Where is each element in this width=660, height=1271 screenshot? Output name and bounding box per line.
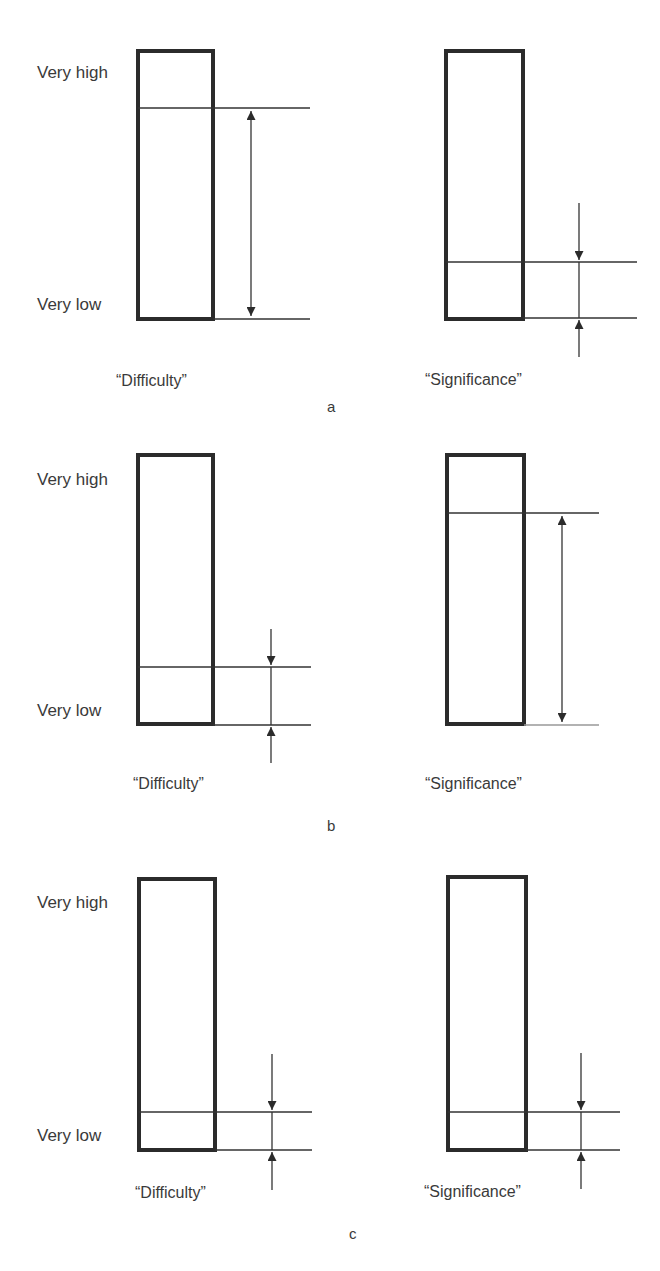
gauge-label-significance: “Significance” <box>424 1183 521 1201</box>
gauge-box <box>447 455 524 724</box>
gauge-box <box>138 51 213 319</box>
gauge-label-difficulty: “Difficulty” <box>135 1184 206 1202</box>
gauge-difficulty-b <box>138 455 311 763</box>
gauge-label-difficulty: “Difficulty” <box>133 775 204 793</box>
panel-caption-a: a <box>327 398 335 415</box>
scale-label-very-high: Very high <box>37 893 108 913</box>
gauge-difficulty-a <box>138 51 310 319</box>
panel-c <box>139 877 620 1190</box>
gauge-difficulty-c <box>139 879 312 1190</box>
scale-label-very-low: Very low <box>37 295 101 315</box>
gauge-significance-a <box>446 51 637 357</box>
panel-b <box>138 455 599 763</box>
scale-label-very-low: Very low <box>37 1126 101 1146</box>
panel-caption-c: c <box>349 1225 357 1242</box>
gauge-label-significance: “Significance” <box>425 371 522 389</box>
gauge-significance-b <box>447 455 599 725</box>
panel-caption-b: b <box>327 817 335 834</box>
panel-a <box>138 51 637 357</box>
gauge-box <box>139 879 215 1150</box>
scale-label-very-high: Very high <box>37 63 108 83</box>
gauge-label-difficulty: “Difficulty” <box>116 372 187 390</box>
scale-label-very-low: Very low <box>37 701 101 721</box>
gauge-box <box>138 455 213 724</box>
gauge-box <box>448 877 526 1150</box>
gauge-box <box>446 51 523 319</box>
gauge-label-significance: “Significance” <box>425 775 522 793</box>
diagram-canvas <box>0 0 660 1271</box>
scale-label-very-high: Very high <box>37 470 108 490</box>
gauge-significance-c <box>448 877 620 1189</box>
